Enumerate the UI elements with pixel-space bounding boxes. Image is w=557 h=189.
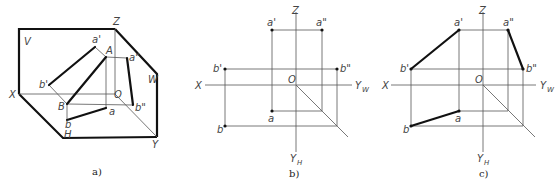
panel-a-pictorial: V Z a' A a" W b' X O B a b" b H Y a)	[8, 16, 159, 177]
label-a-front: a'	[92, 34, 101, 45]
line-ab-front	[411, 30, 459, 69]
proj-line-a-side	[106, 57, 127, 58]
label-origin: O	[288, 74, 296, 85]
line-ab-top	[67, 108, 106, 120]
label-a-front: a'	[267, 17, 276, 28]
projection-figure: V Z a' A a" W b' X O B a b" b H Y a)	[0, 0, 557, 189]
label-a-top: a	[109, 106, 115, 117]
label-origin: O	[114, 89, 122, 100]
label-axis-yw: Y	[540, 80, 547, 91]
point-b-front	[223, 67, 226, 70]
label-plane-w: W	[148, 74, 159, 85]
label-axis-x: X	[194, 80, 203, 91]
label-origin: O	[475, 74, 483, 85]
label-a-side: a"	[316, 17, 327, 28]
label-axis-yh-sub: H	[297, 159, 303, 167]
point-b-front	[409, 67, 412, 70]
panel-b-points: Z a' a" b' b" X O Y W a b Y H b)	[194, 5, 370, 179]
point-b-top	[409, 124, 412, 127]
label-axis-yw: Y	[355, 80, 362, 91]
caption-c: c)	[479, 168, 489, 179]
label-a-top: a	[455, 113, 461, 124]
label-axis-yw-sub: W	[362, 86, 370, 94]
caption-b: b)	[289, 168, 299, 179]
label-axis-yh-sub: H	[484, 159, 490, 167]
label-axis-yw-sub: W	[547, 86, 555, 94]
label-b-front: b'	[39, 79, 48, 90]
point-a-front	[270, 28, 273, 31]
label-b-front: b'	[400, 63, 409, 74]
label-b-side: b"	[135, 102, 146, 113]
line-ab-side	[508, 30, 523, 69]
label-axis-x: X	[8, 89, 17, 100]
point-b-top	[223, 124, 226, 127]
label-point-B: B	[58, 101, 65, 112]
label-b-top: b	[403, 124, 409, 135]
label-axis-z: Z	[478, 5, 487, 16]
label-axis-z: Z	[291, 5, 300, 16]
label-axis-yh: Y	[290, 153, 297, 164]
point-a-front	[457, 28, 460, 31]
label-point-A: A	[105, 45, 113, 56]
point-b-side	[335, 67, 338, 70]
label-b-side: b"	[526, 63, 537, 74]
point-a-side	[506, 28, 509, 31]
point-b-side	[521, 67, 524, 70]
panel-c-line: Z a' a" b' b" X O Y W a b Y H c)	[381, 5, 555, 179]
caption-a: a)	[92, 166, 102, 177]
point-a-side	[320, 28, 323, 31]
label-b-front: b'	[213, 63, 222, 74]
label-axis-x: X	[381, 80, 390, 91]
proj-line-b-side	[67, 104, 133, 105]
label-axis-z: Z	[112, 16, 121, 27]
label-plane-h: H	[64, 129, 72, 140]
line-ab-top	[411, 111, 459, 126]
label-b-side: b"	[340, 63, 351, 74]
label-a-front: a'	[454, 17, 463, 28]
line-ab-side	[127, 58, 133, 105]
label-a-top: a	[268, 113, 274, 124]
label-axis-y: Y	[152, 139, 159, 150]
label-b-top: b	[217, 124, 223, 135]
label-a-side: a"	[129, 52, 140, 63]
axis-y-line	[115, 94, 157, 137]
label-plane-v: V	[24, 36, 32, 47]
label-a-side: a"	[503, 17, 514, 28]
proj-line-a-front	[95, 47, 106, 57]
label-axis-yh: Y	[477, 153, 484, 164]
